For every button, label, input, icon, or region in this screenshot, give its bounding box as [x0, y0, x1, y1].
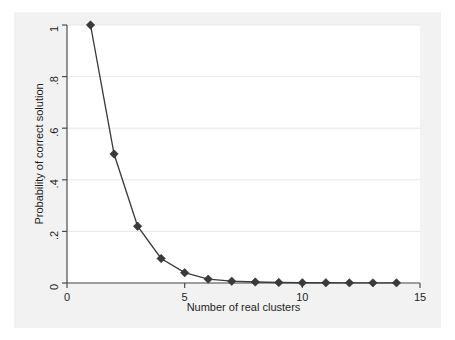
x-tick-label: 15: [414, 291, 426, 303]
y-tick-label: .2: [48, 231, 60, 240]
y-tick-label: 0: [48, 284, 60, 290]
x-axis-ticks: [67, 283, 420, 288]
y-tick-label: .4: [48, 179, 60, 188]
y-tick-label: .6: [48, 128, 60, 137]
chart-plot-area: 0.2.4.6.81 051015 Number of real cluster…: [0, 0, 455, 340]
y-axis-title: Probability of correct solution: [33, 83, 45, 224]
figure-container: 0.2.4.6.81 051015 Number of real cluster…: [0, 0, 455, 340]
x-axis-title: Number of real clusters: [187, 301, 301, 313]
y-tick-label: 1: [48, 26, 60, 32]
line-chart: 0.2.4.6.81 051015 Number of real cluster…: [0, 0, 455, 340]
y-tick-label: .8: [48, 76, 60, 85]
y-axis-tick-labels: 0.2.4.6.81: [48, 26, 60, 290]
x-tick-label: 0: [64, 291, 70, 303]
y-axis-ticks: [62, 25, 67, 283]
plot-background: [67, 25, 420, 283]
